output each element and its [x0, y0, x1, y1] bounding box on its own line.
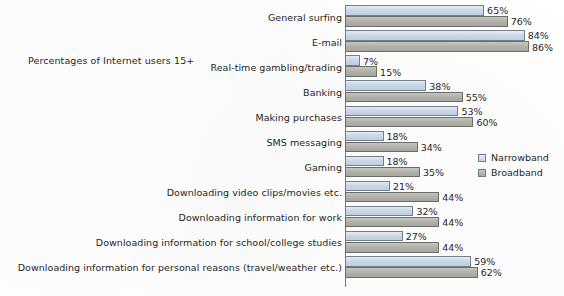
bar-group: 38%55%: [345, 79, 564, 104]
bar-rect[interactable]: [345, 80, 426, 90]
bar-nb[interactable]: 18%: [345, 131, 424, 141]
bar-nb[interactable]: 27%: [345, 231, 443, 241]
bar-rect[interactable]: [345, 206, 413, 216]
chart-row: E-mail84%86%: [0, 29, 564, 54]
bar-rect[interactable]: [345, 66, 377, 76]
bar-nb[interactable]: 53%: [345, 106, 498, 116]
bar-value-label: 84%: [525, 30, 549, 41]
bar-bb[interactable]: 62%: [345, 267, 518, 277]
bar-value-label: 59%: [471, 256, 495, 267]
category-label: Making purchases: [255, 111, 342, 122]
bar-value-label: 53%: [458, 105, 482, 116]
bar-group: 7%15%: [345, 54, 564, 79]
bar-group: 32%44%: [345, 205, 564, 230]
bar-value-label: 60%: [473, 116, 497, 127]
category-label: SMS messaging: [267, 137, 342, 148]
bar-value-label: 86%: [529, 41, 553, 52]
bar-rect[interactable]: [345, 30, 525, 40]
chart-row: Downloading information for work32%44%: [0, 205, 564, 230]
category-label: E-mail: [312, 36, 342, 47]
chart-row: Making purchases53%60%: [0, 104, 564, 129]
bar-rect[interactable]: [345, 92, 463, 102]
bar-value-label: 55%: [463, 91, 487, 102]
bar-rect[interactable]: [345, 106, 458, 116]
bar-value-label: 44%: [439, 192, 463, 203]
bar-group: 53%60%: [345, 104, 564, 129]
bar-value-label: 62%: [478, 267, 502, 278]
bar-bb[interactable]: 86%: [345, 41, 564, 51]
bar-rect[interactable]: [345, 192, 439, 202]
square-swatch-icon: [478, 154, 486, 162]
bar-value-label: 27%: [403, 231, 427, 242]
bar-value-label: 44%: [439, 217, 463, 228]
bar-value-label: 35%: [420, 167, 444, 178]
legend-item-narrowband[interactable]: Narrowband: [478, 150, 549, 165]
bar-rect[interactable]: [345, 117, 473, 127]
bar-value-label: 44%: [439, 242, 463, 253]
bar-bb[interactable]: 44%: [345, 217, 479, 227]
bar-rect[interactable]: [345, 167, 420, 177]
bar-rect[interactable]: [345, 142, 418, 152]
category-label: General surfing: [268, 11, 342, 22]
category-label: Downloading video clips/movies etc.: [167, 187, 342, 198]
bar-group: 27%44%: [345, 230, 564, 255]
bar-value-label: 32%: [413, 206, 437, 217]
bar-bb[interactable]: 55%: [345, 92, 503, 102]
bar-nb[interactable]: 84%: [345, 30, 564, 40]
bar-rect[interactable]: [345, 217, 439, 227]
bar-nb[interactable]: 32%: [345, 206, 453, 216]
chart-row: General surfing65%76%: [0, 4, 564, 29]
bar-nb[interactable]: 7%: [345, 55, 400, 65]
chart-row: Downloading information for school/colle…: [0, 230, 564, 255]
category-label: Downloading information for school/colle…: [96, 237, 342, 248]
plot-area: General surfing65%76%E-mail84%86%Real-ti…: [0, 4, 564, 292]
bar-group: 65%76%: [345, 4, 564, 29]
bar-nb[interactable]: 65%: [345, 5, 524, 15]
category-label: Downloading information for personal rea…: [18, 262, 342, 273]
chart-legend: Narrowband Broadband: [478, 150, 549, 180]
chart-row: Downloading information for personal rea…: [0, 255, 564, 280]
category-label: Real-time gambling/trading: [210, 61, 342, 72]
bar-nb[interactable]: 38%: [345, 80, 466, 90]
bar-rect[interactable]: [345, 131, 384, 141]
bar-bb[interactable]: 60%: [345, 117, 513, 127]
chart-row: Downloading video clips/movies etc.21%44…: [0, 180, 564, 205]
bar-rect[interactable]: [345, 41, 529, 51]
bar-group: 59%62%: [345, 255, 564, 280]
bar-rect[interactable]: [345, 267, 478, 277]
legend-item-broadband[interactable]: Broadband: [478, 165, 549, 180]
bar-nb[interactable]: 21%: [345, 181, 430, 191]
bar-value-label: 38%: [426, 80, 450, 91]
bar-rect[interactable]: [345, 16, 508, 26]
legend-item-label: Narrowband: [491, 152, 549, 163]
bar-rect[interactable]: [345, 256, 471, 266]
bar-bb[interactable]: 76%: [345, 16, 548, 26]
bar-rect[interactable]: [345, 181, 390, 191]
bar-value-label: 65%: [484, 5, 508, 16]
legend-item-label: Broadband: [491, 167, 543, 178]
bar-value-label: 76%: [508, 16, 532, 27]
bar-bb[interactable]: 15%: [345, 66, 417, 76]
bar-value-label: 15%: [377, 66, 401, 77]
bar-bb[interactable]: 34%: [345, 142, 458, 152]
bar-value-label: 7%: [360, 55, 378, 66]
category-label: Downloading information for work: [179, 212, 342, 223]
bar-group: 21%44%: [345, 180, 564, 205]
bar-bb[interactable]: 35%: [345, 167, 460, 177]
bar-chart: Percentages of Internet users 15+ Genera…: [0, 0, 564, 296]
bar-rect[interactable]: [345, 231, 403, 241]
bar-rect[interactable]: [345, 156, 384, 166]
bar-bb[interactable]: 44%: [345, 192, 479, 202]
chart-row: Banking38%55%: [0, 79, 564, 104]
bar-rect[interactable]: [345, 55, 360, 65]
category-label: Banking: [303, 86, 342, 97]
square-swatch-icon: [478, 169, 486, 177]
bar-nb[interactable]: 59%: [345, 256, 511, 266]
bar-rect[interactable]: [345, 5, 484, 15]
category-label: Gaming: [305, 162, 342, 173]
bar-rect[interactable]: [345, 242, 439, 252]
bar-bb[interactable]: 44%: [345, 242, 479, 252]
chart-row: Real-time gambling/trading7%15%: [0, 54, 564, 79]
bar-value-label: 18%: [384, 155, 408, 166]
bar-nb[interactable]: 18%: [345, 156, 424, 166]
